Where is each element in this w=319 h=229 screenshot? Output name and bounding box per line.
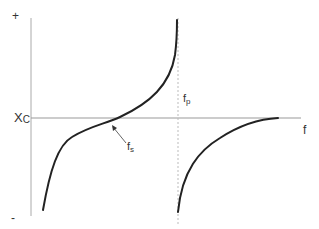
fs-label: fs — [127, 141, 134, 154]
y-axis-label-sub: C — [23, 114, 30, 125]
x-axis-label: f — [303, 124, 306, 136]
fs-arrow-head-icon — [112, 125, 117, 131]
reactance-diagram: + - XC f fp fs — [0, 0, 319, 229]
y-axis-label: XC — [14, 111, 30, 125]
fs-label-sub: s — [130, 145, 134, 154]
y-axis-plus-label: + — [12, 10, 19, 22]
diagram-canvas — [0, 0, 319, 229]
curve-left-branch — [43, 20, 177, 210]
y-axis-minus-label: - — [11, 212, 15, 224]
fp-label-sub: p — [186, 97, 190, 106]
curve-right-branch — [178, 118, 278, 212]
fp-label: fp — [183, 93, 191, 106]
y-axis-label-main: X — [14, 110, 23, 125]
